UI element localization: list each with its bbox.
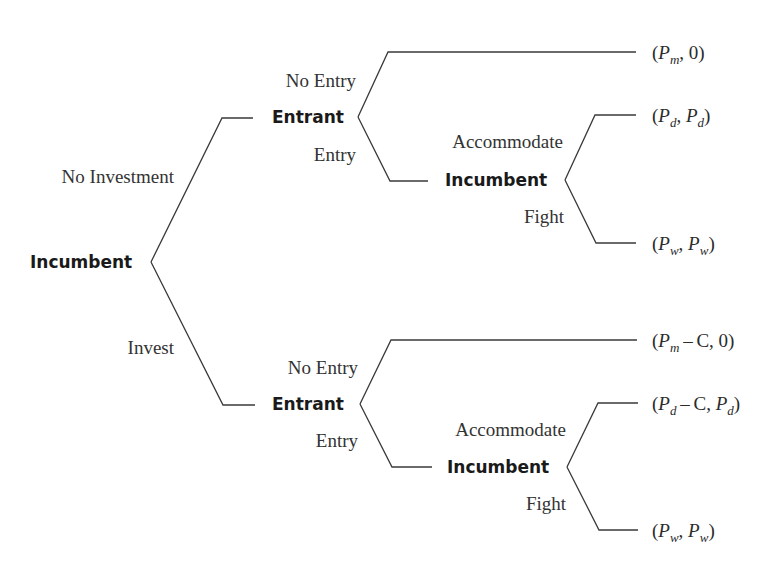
node-upper-incumbent: Incumbent	[445, 172, 547, 189]
edge-upper-accommodate	[565, 115, 636, 180]
payoff-no-invest-entry-fight: (Pw, Pw)	[652, 234, 715, 253]
edge-no-investment	[151, 118, 253, 262]
payoff-no-invest-entry-accommodate: (Pd, Pd)	[652, 106, 710, 125]
edge-lower-entry	[360, 404, 432, 467]
action-invest: Invest	[128, 338, 174, 357]
action-lower-accommodate: Accommodate	[455, 420, 566, 439]
edge-upper-no-entry	[358, 52, 636, 117]
payoff-invest-entry-fight: (Pw, Pw)	[652, 521, 715, 540]
node-lower-incumbent: Incumbent	[447, 459, 549, 476]
action-upper-entry: Entry	[314, 145, 356, 164]
action-upper-no-entry: No Entry	[286, 71, 356, 90]
edge-upper-fight	[565, 180, 636, 243]
tree-edges	[0, 0, 774, 563]
action-upper-accommodate: Accommodate	[452, 132, 563, 151]
node-upper-entrant: Entrant	[272, 109, 344, 126]
edge-invest	[151, 262, 255, 405]
payoff-invest-entry-accommodate: (Pd – C, Pd)	[652, 394, 740, 413]
node-lower-entrant: Entrant	[272, 396, 344, 413]
payoff-invest-no-entry: (Pm – C, 0)	[652, 331, 734, 350]
action-lower-entry: Entry	[316, 431, 358, 450]
edge-lower-no-entry	[360, 340, 637, 404]
action-no-investment: No Investment	[62, 167, 174, 186]
payoff-no-invest-no-entry: (Pm, 0)	[652, 43, 705, 62]
node-root-incumbent: Incumbent	[30, 254, 132, 271]
action-upper-fight: Fight	[524, 207, 564, 226]
edge-upper-entry	[358, 117, 428, 181]
edge-lower-accommodate	[567, 403, 638, 467]
action-lower-no-entry: No Entry	[288, 358, 358, 377]
edge-lower-fight	[567, 467, 638, 530]
action-lower-fight: Fight	[526, 494, 566, 513]
game-tree-diagram: Incumbent Entrant Incumbent Entrant Incu…	[0, 0, 774, 563]
